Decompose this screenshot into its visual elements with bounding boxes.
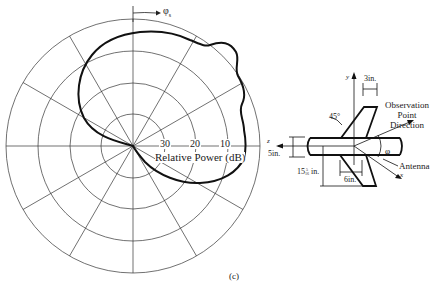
polar-grid	[0, 0, 433, 289]
ring-label-30: 30	[159, 139, 171, 149]
angle-45: 45°	[329, 113, 340, 121]
phi-s-label: φs	[163, 6, 171, 18]
obs-line-3: Direction	[382, 120, 432, 130]
ring-label-10: 10	[219, 139, 231, 149]
dim-3in: 3in.	[364, 75, 376, 83]
dim-5in: 5in.	[268, 150, 280, 158]
dim-whole: 15	[297, 167, 305, 176]
figure-caption: (c)	[229, 272, 239, 281]
dim-unit: in.	[311, 167, 319, 176]
y-axis-label: y	[346, 74, 349, 81]
z-axis-label: z	[267, 138, 270, 145]
dim-6in: 6in.	[344, 176, 356, 184]
obs-line-2: Point	[382, 110, 432, 120]
phi-subscript: s	[169, 12, 171, 18]
phi-label: φ	[385, 147, 390, 156]
observation-label: Observation Point Direction	[382, 100, 432, 130]
antenna-label: Antenna	[399, 162, 430, 171]
x-axis-label: x	[400, 172, 403, 179]
radial-axis-title: Relative Power (dB)	[155, 152, 245, 163]
ring-label-20: 20	[189, 139, 201, 149]
figure-canvas: φs 30 20 10 Relative Power (dB) y 3in. 4…	[0, 0, 433, 289]
obs-line-1: Observation	[382, 100, 432, 110]
dim-den: 16	[305, 171, 309, 176]
dim-15-5-16: 15516 in.	[297, 168, 319, 176]
